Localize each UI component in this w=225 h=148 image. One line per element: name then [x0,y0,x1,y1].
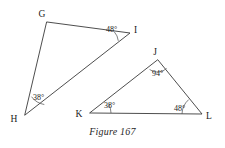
vertex-label-L: L [206,111,212,121]
triangle-JKL: J K L 94° 38° 48° [76,47,212,121]
angle-label-H: 38° [33,93,44,102]
angle-label-I: 48° [106,25,117,34]
figure-page: G I H 48° 38° J K L 94° 38° 48° Figure 1… [0,0,225,148]
vertex-label-I: I [134,25,137,35]
vertex-label-K: K [76,109,83,119]
triangle-GHI: G I H 48° 38° [11,9,138,124]
vertex-label-G: G [39,9,46,19]
figure-caption: Figure 167 [0,126,225,137]
vertex-label-J: J [153,47,157,57]
angle-label-K: 38° [104,101,115,110]
angle-label-J: 94° [152,69,163,78]
angle-label-L: 48° [174,104,185,113]
vertex-label-H: H [11,114,18,124]
